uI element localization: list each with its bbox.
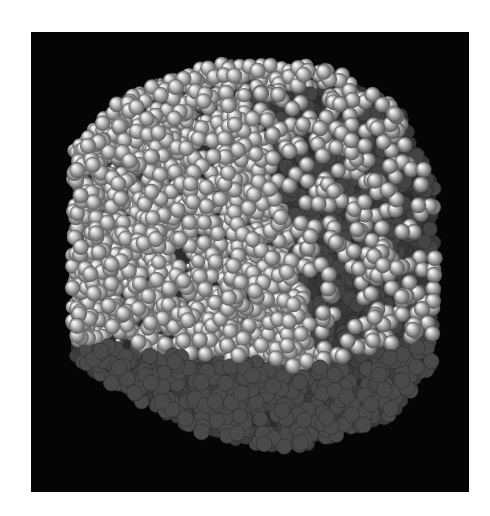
water-cluster-render: [31, 32, 469, 492]
molecular-render-frame: [31, 32, 469, 492]
